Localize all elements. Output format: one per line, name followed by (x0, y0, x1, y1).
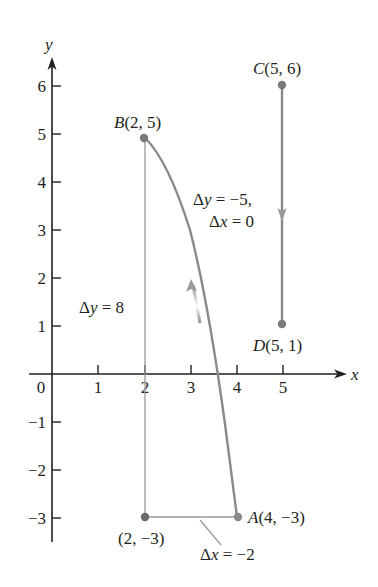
point-a (234, 513, 242, 521)
arrow-up-icon (186, 279, 197, 292)
label-point-c: C(5, 6) (253, 59, 301, 78)
annotation-delta-y-cd: Δy = −5, (193, 190, 252, 209)
label-point-corner: (2, −3) (118, 529, 164, 548)
y-axis (48, 57, 57, 542)
y-tick-label: −2 (28, 461, 46, 480)
delta-x-leader (200, 520, 221, 545)
annotation-delta-x-cd: Δx = 0 (209, 212, 254, 231)
annotation-delta-y-ab: Δy = 8 (79, 298, 124, 317)
point-b (140, 134, 148, 142)
label-point-d: D(5, 1) (252, 336, 302, 355)
x-tick-label: 4 (233, 378, 242, 397)
label-point-a: A(4, −3) (247, 508, 305, 527)
path-c-to-d (278, 85, 287, 324)
y-tick-label: −3 (28, 509, 46, 528)
x-axis-label: x (350, 365, 359, 384)
x-tick-label: 5 (279, 378, 288, 397)
coordinate-diagram: y x 6 5 4 3 2 1 −1 −2 −3 0 1 2 3 4 5 (0, 0, 378, 587)
point-d (278, 320, 286, 328)
y-tick-label: 1 (38, 317, 47, 336)
label-point-b: B(2, 5) (114, 113, 161, 132)
y-tick-label: 2 (38, 269, 47, 288)
point-c (278, 81, 286, 89)
y-tick-label: 6 (38, 77, 47, 96)
y-tick-label: 4 (38, 173, 47, 192)
x-ticks (98, 365, 283, 374)
y-tick-label: 5 (38, 125, 47, 144)
points (140, 81, 286, 521)
x-tick-label: 3 (187, 378, 196, 397)
y-axis-label: y (43, 35, 53, 54)
y-tick-label: 3 (38, 221, 47, 240)
annotation-delta-x-ab: Δx = −2 (200, 545, 255, 564)
y-ticks (52, 86, 61, 518)
y-tick-label: −1 (28, 413, 46, 432)
x-tick-label: 0 (37, 378, 46, 397)
point-corner (141, 513, 149, 521)
x-tick-label: 1 (94, 378, 103, 397)
